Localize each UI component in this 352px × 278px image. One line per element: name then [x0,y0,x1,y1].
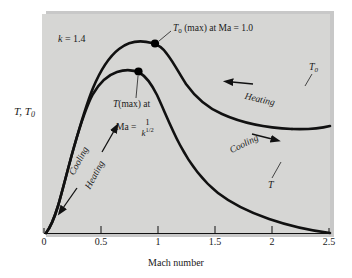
leader-curve-T0 [305,74,312,86]
k-value-annotation: k = 1.4 [58,34,86,44]
leader-curve-T [272,162,281,178]
marker-T-max [134,67,142,75]
ma-fraction: 1 k1/2 [139,118,155,138]
arrow-heating-left [102,131,114,152]
x-tick-label-1-5: 1.5 [209,236,222,247]
marker-T0-max [151,39,159,47]
x-tick-label-0-5: 0.5 [95,236,108,247]
t-max-text: (max) at [118,99,150,109]
y-axis-label-sub: 0 [31,110,35,119]
curve-label-T0-subscript: 0 [315,66,319,74]
curve-label-T0: T0 [309,62,318,74]
x-tick-label-2: 2 [270,236,275,247]
leader-T-max [136,76,138,98]
plot-svg [0,0,352,278]
x-tick-label-0: 0 [42,236,47,247]
t-max-callout: T(max) at [113,100,150,110]
leader-T0-max [159,31,171,41]
y-axis-label-text: T, T [14,105,31,117]
ma-formula: Ma = 1 k1/2 [116,118,156,138]
ma-denominator: k1/2 [139,127,155,138]
curve-T0-tail [292,126,330,129]
x-axis-title: Mach number [148,257,204,268]
y-axis-label: T, T0 [14,106,35,119]
x-axis-ticks [44,226,329,234]
arrow-heating-right [232,82,253,84]
t0-max-callout: T0 (max) at Ma = 1.0 [173,24,253,35]
ma-prefix: Ma = [116,123,136,133]
x-tick-label-2-5: 2.5 [323,236,336,247]
arrow-cooling-left [63,188,77,208]
x-tick-label-1: 1 [156,236,161,247]
k-value-text: = 1.4 [62,33,85,44]
ma-denominator-exponent: 1/2 [145,126,153,133]
figure-container: T, T0 0 0.5 1 1.5 2 2.5 Mach number k = … [0,0,352,278]
t0-max-text: (max) at Ma = 1.0 [182,23,253,33]
curve-label-T: T [268,180,274,190]
